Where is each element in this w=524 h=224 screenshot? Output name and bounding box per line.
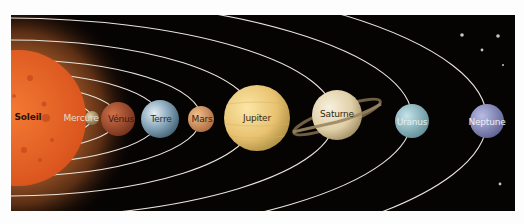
label-venus: Vénus [108, 114, 134, 124]
label-jupiter: Jupiter [243, 113, 271, 123]
label-saturne: Saturne [320, 109, 354, 119]
label-mercure: Mercure [63, 113, 98, 123]
image-frame: Soleil Mercure Vénus Terre Mars Jupiter … [0, 0, 524, 224]
label-neptune: Neptune [468, 117, 505, 127]
label-soleil: Soleil [15, 112, 42, 122]
solar-system-diagram: Soleil Mercure Vénus Terre Mars Jupiter … [11, 15, 515, 211]
label-uranus: Uranus [397, 117, 428, 127]
label-terre: Terre [150, 114, 171, 124]
label-mars: Mars [192, 114, 213, 124]
